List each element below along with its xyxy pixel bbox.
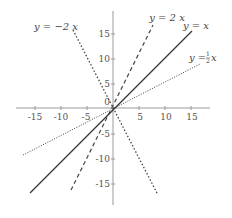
line-y-equals-half-x (23, 64, 200, 155)
label-y-equals-neg-2x: y = −2 x (33, 21, 78, 32)
y-tick-label: -10 (96, 154, 111, 164)
label-y-equals-half-x: y = 1 2 x (188, 50, 217, 64)
svg-text:1: 1 (206, 50, 210, 57)
label-y-equals-x: y = x (182, 20, 209, 31)
y-tick-label: 5 (104, 79, 110, 89)
svg-text:2: 2 (206, 57, 210, 64)
x-tick-label: 15 (186, 112, 198, 122)
x-tick-label: 10 (160, 112, 172, 122)
x-tick-label: -5 (82, 112, 91, 122)
line-chart: -15 -10 -5 5 10 15 15 10 5 0 -5 -10 -15 … (0, 0, 232, 218)
y-tick-label: 15 (99, 29, 111, 39)
svg-text:x: x (211, 52, 217, 63)
x-tick-label: -15 (28, 112, 43, 122)
label-y-equals-2x: y = 2 x (148, 12, 185, 23)
x-tick-label: -10 (54, 112, 69, 122)
y-tick-label: -15 (96, 179, 111, 189)
svg-text:y =: y = (188, 52, 206, 63)
y-tick-label: -5 (101, 129, 110, 139)
y-tick-labels: 15 10 5 0 -5 -10 -15 (96, 29, 111, 189)
x-tick-label: 5 (137, 112, 143, 122)
y-tick-label: 10 (99, 54, 111, 64)
